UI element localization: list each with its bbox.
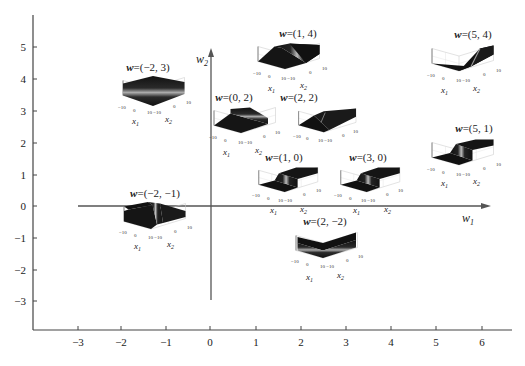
y-tick-4: 4 (21, 73, 27, 85)
x-tick-neg1: −1 (160, 336, 172, 348)
svg-text:x1: x1 (133, 241, 141, 252)
svg-text:10 −10: 10 −10 (318, 138, 333, 143)
svg-text:x2: x2 (299, 80, 307, 91)
svg-text:0: 0 (483, 166, 486, 171)
svg-text:10: 10 (316, 188, 322, 193)
figure-canvas: 5 4 3 2 1 0 −1 −2 −3 −3 −2 −1 0 1 2 3 4 (0, 0, 525, 366)
svg-text:0: 0 (173, 104, 176, 109)
y-tick-neg2: −2 (14, 264, 26, 276)
svg-text:10 −10: 10 −10 (320, 264, 335, 269)
svg-text:0: 0 (267, 196, 270, 201)
svg-text:−10: −10 (334, 193, 342, 198)
svg-text:0: 0 (306, 136, 309, 141)
w1-arrow-icon (481, 203, 491, 209)
inset-w-neg2-3: w=(−2, 3) −10010 −10010 x1 x2 (118, 61, 192, 127)
svg-text:10: 10 (496, 162, 502, 167)
svg-text:x1: x1 (267, 83, 275, 94)
svg-text:−10: −10 (119, 230, 127, 235)
svg-text:0: 0 (483, 72, 486, 77)
svg-text:−10: −10 (253, 71, 261, 76)
y-tick-neg1: −1 (14, 232, 26, 244)
svg-text:−10: −10 (209, 135, 217, 140)
inset-w-neg2-neg1: w=(−2, −1) −10010 −10010 x1 x2 (119, 187, 193, 252)
x-tick-0: 0 (207, 336, 213, 348)
y-tick-0: 0 (21, 200, 27, 212)
inset-w-1-4: w=(1, 4) −10010 −10010 x1 x2 (253, 27, 328, 94)
svg-text:0: 0 (263, 134, 266, 139)
svg-text:x1: x1 (222, 147, 230, 158)
y-tick-2: 2 (21, 137, 27, 149)
svg-text:x1: x1 (440, 85, 448, 96)
svg-text:10 −10: 10 −10 (278, 198, 293, 203)
svg-text:10: 10 (275, 130, 281, 135)
svg-text:w=(−2, −1): w=(−2, −1) (130, 187, 180, 200)
svg-text:10 −10: 10 −10 (281, 76, 296, 81)
inset-w-0-2: w=(0, 2) −10010 −10010 x1 x2 (209, 91, 281, 158)
x-tick-neg2: −2 (115, 336, 127, 348)
svg-text:0: 0 (268, 74, 271, 79)
svg-text:−10: −10 (427, 73, 435, 78)
svg-text:w=(0, 2): w=(0, 2) (215, 91, 253, 104)
svg-text:10 −10: 10 −10 (148, 235, 163, 240)
svg-text:10: 10 (496, 68, 502, 73)
svg-text:10: 10 (187, 225, 193, 230)
svg-text:0: 0 (442, 76, 445, 81)
svg-text:w=(−2, 3): w=(−2, 3) (126, 61, 170, 74)
svg-text:x2: x2 (166, 239, 174, 250)
svg-text:0: 0 (386, 192, 389, 197)
x-tick-4: 4 (388, 336, 394, 348)
svg-text:0: 0 (342, 133, 345, 138)
y-tick-3: 3 (21, 105, 27, 117)
svg-text:0: 0 (309, 70, 312, 75)
x-tick-6: 6 (479, 336, 485, 348)
svg-text:−10: −10 (291, 259, 299, 264)
svg-text:10 −10: 10 −10 (147, 110, 162, 115)
svg-text:10 −10: 10 −10 (456, 78, 471, 83)
y-tick-1: 1 (21, 169, 27, 181)
svg-text:x1: x1 (305, 272, 313, 283)
inset-w-5-1: w=(5, 1) −10010 −10010 x1 x2 (427, 122, 502, 189)
svg-text:0: 0 (134, 233, 137, 238)
svg-text:w=(1, 0): w=(1, 0) (265, 151, 303, 164)
svg-text:w=(2, 2): w=(2, 2) (280, 91, 318, 104)
outer-y-axis: 5 4 3 2 1 0 −1 −2 −3 (14, 15, 37, 330)
x-tick-neg3: −3 (72, 336, 84, 348)
svg-text:x2: x2 (472, 176, 480, 187)
svg-text:−10: −10 (293, 134, 301, 139)
svg-text:10 −10: 10 −10 (456, 172, 471, 177)
svg-text:w=(3, 0): w=(3, 0) (349, 151, 387, 164)
outer-x-axis: −3 −2 −1 0 1 2 3 4 5 6 (33, 326, 512, 348)
svg-text:−10: −10 (252, 193, 260, 198)
svg-text:w=(5, 4): w=(5, 4) (454, 28, 492, 41)
svg-text:10 −10: 10 −10 (238, 140, 253, 145)
svg-text:x1: x1 (440, 178, 448, 189)
svg-text:0: 0 (349, 196, 352, 201)
y-tick-neg3: −3 (14, 295, 26, 307)
svg-text:−10: −10 (427, 167, 435, 172)
svg-text:−10: −10 (118, 105, 126, 110)
w2-axis-label: w2 (196, 52, 208, 68)
surface-plot (123, 76, 185, 106)
svg-text:w=(2, −2): w=(2, −2) (303, 215, 347, 228)
svg-text:10: 10 (353, 129, 359, 134)
svg-text:0: 0 (174, 229, 177, 234)
svg-text:0: 0 (133, 108, 136, 113)
svg-text:0: 0 (442, 170, 445, 175)
w1-axis-label: w1 (462, 211, 474, 227)
w2-arrow-icon (208, 48, 214, 57)
svg-text:x1: x1 (131, 116, 139, 127)
svg-text:10 −10: 10 −10 (361, 198, 376, 203)
y-tick-5: 5 (21, 41, 27, 53)
svg-text:w=(1, 4): w=(1, 4) (279, 27, 317, 40)
svg-text:x2: x2 (164, 114, 172, 125)
x-tick-5: 5 (433, 336, 439, 348)
svg-text:x2: x2 (254, 145, 262, 156)
x-tick-1: 1 (253, 336, 259, 348)
x-tick-2: 2 (298, 336, 304, 348)
svg-text:x2: x2 (336, 270, 344, 281)
svg-text:w=(5, 1): w=(5, 1) (455, 122, 493, 135)
svg-text:10: 10 (322, 66, 328, 71)
svg-text:10: 10 (358, 254, 364, 259)
inset-w-2-2: w=(2, 2) −10010 −10010 (280, 91, 358, 143)
svg-text:10: 10 (186, 100, 192, 105)
